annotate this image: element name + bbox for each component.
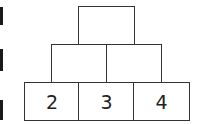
pyramid-cell-bottom-middle[interactable]: 3 xyxy=(78,82,135,121)
edge-mark-top xyxy=(0,7,3,25)
pyramid-cell-bottom-right[interactable]: 4 xyxy=(133,82,190,121)
pyramid-cell-middle-right[interactable] xyxy=(106,44,162,83)
pyramid-cell-bottom-left[interactable]: 2 xyxy=(24,82,80,121)
edge-mark-middle xyxy=(0,49,3,71)
edge-mark-bottom xyxy=(0,100,3,120)
pyramid-cell-top[interactable] xyxy=(78,6,135,45)
pyramid-cell-middle-left[interactable] xyxy=(51,44,108,83)
